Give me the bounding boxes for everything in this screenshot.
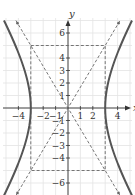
x-tick-label: 2 [90, 111, 96, 121]
y-tick-label: 2 [59, 78, 65, 88]
asymptote-arrow-icon [117, 22, 120, 25]
hyperbola-graph: −4−2−112464321−1−2−3−4−6xy [0, 0, 135, 195]
x-tick-label: −4 [12, 111, 26, 121]
y-tick-label: −1 [52, 116, 65, 126]
asymptote-arrow-icon [117, 192, 120, 195]
x-tick-label: 4 [115, 111, 121, 121]
y-tick-label: 6 [59, 28, 65, 38]
y-tick-label: −4 [52, 153, 66, 163]
y-tick-label: −3 [52, 141, 66, 151]
y-tick-label: 4 [59, 53, 65, 63]
y-tick-label: 3 [59, 66, 65, 76]
asymptote-arrow-icon [16, 192, 19, 195]
x-tick-label: −2 [37, 111, 50, 121]
axes [3, 20, 131, 195]
x-axis-label: x [133, 102, 135, 113]
y-tick-label: −6 [52, 178, 66, 188]
y-tick-label: 1 [59, 91, 65, 101]
y-tick-label: −2 [52, 128, 65, 138]
x-tick-label: 1 [78, 111, 84, 121]
asymptote-arrow-icon [16, 22, 19, 25]
y-axis-label: y [68, 8, 75, 19]
